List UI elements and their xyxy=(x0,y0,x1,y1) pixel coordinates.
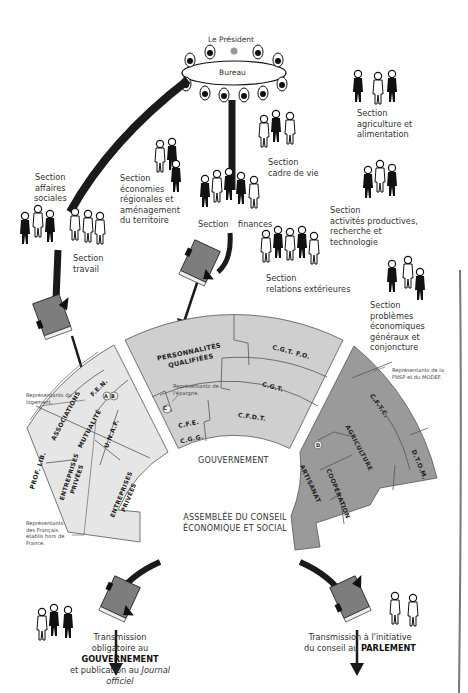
section-activites-productives: Sectionactivités productives,recherche e… xyxy=(330,205,418,247)
page-edge-line xyxy=(459,270,461,693)
gouvernement-label: GOUVERNEMENT xyxy=(198,456,269,465)
section-finances-right: finances xyxy=(238,219,272,230)
section-finances-left: Section xyxy=(198,219,228,230)
output-gouvernement: Transmission obligatoire au GOUVERNEMENT… xyxy=(60,632,180,687)
president-label: Le Président xyxy=(208,35,254,46)
seg-b: B xyxy=(111,393,115,399)
seg-a: A xyxy=(104,393,108,399)
seg-d: D xyxy=(316,442,320,448)
section-travail: Sectiontravail xyxy=(73,253,103,274)
note-fnsp: Représentants de la FNSP et du MODEF. xyxy=(392,367,447,380)
book-projet-left xyxy=(30,292,80,341)
assembly-title: ASSEMBLÉE DU CONSEIL ÉCONOMIQUE ET SOCIA… xyxy=(170,512,300,534)
seg-c: C xyxy=(163,405,167,411)
note-francais: Représentants des Français établis hors … xyxy=(26,520,71,546)
output-parlement: Transmission à l'initiative du conseil a… xyxy=(300,632,420,654)
section-affaires-sociales: Sectionaffairessociales xyxy=(34,172,67,204)
section-relations-exterieures: Sectionrelations extérieures xyxy=(266,273,350,294)
section-cadre-de-vie: Sectioncadre de vie xyxy=(268,157,319,178)
bureau-label: Bureau xyxy=(219,68,246,79)
book-projet-center xyxy=(176,239,226,289)
section-problemes-economiques: Sectionproblèmeséconomiquesgénéraux etco… xyxy=(370,300,425,353)
fan-center xyxy=(125,315,343,449)
note-logement: Représentants du logement. xyxy=(26,392,76,405)
book-avis-left xyxy=(96,575,146,625)
note-epargne: Représentants de l'épargne. xyxy=(173,383,223,396)
section-economies-regionales: Sectionéconomiesrégionales etaménagement… xyxy=(120,173,180,226)
section-agriculture: Sectionagriculture etalimentation xyxy=(357,108,412,140)
